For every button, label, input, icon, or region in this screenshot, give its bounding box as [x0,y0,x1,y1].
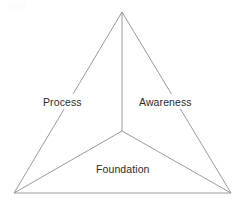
label-foundation: Foundation [93,162,153,176]
label-process: Process [40,95,85,109]
triangle-diagram [0,0,245,209]
label-awareness: Awareness [136,95,195,109]
diagram-canvas: Process Awareness Foundation [0,0,245,209]
